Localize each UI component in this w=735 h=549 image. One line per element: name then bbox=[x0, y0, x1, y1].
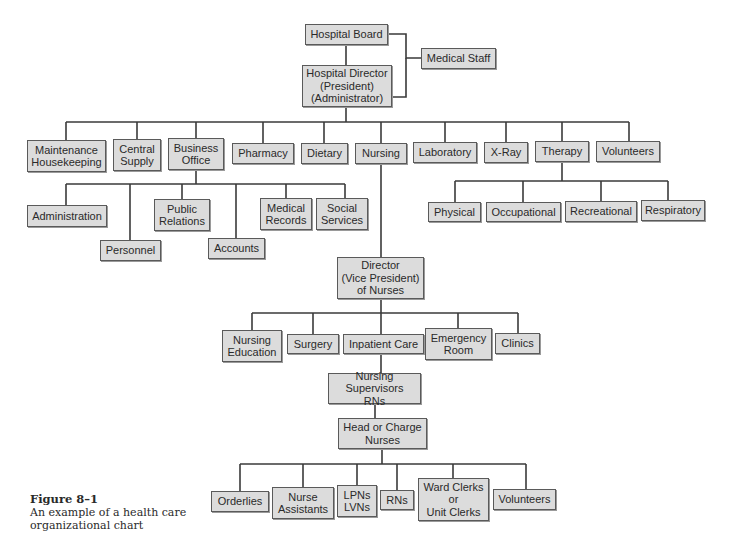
org-node-dietary: Dietary bbox=[301, 143, 348, 164]
org-node-recreational: Recreational bbox=[565, 201, 637, 222]
org-node-x-ray: X-Ray bbox=[484, 142, 528, 163]
org-node-medical-records: Medical Records bbox=[260, 198, 312, 230]
caption-line-2: organizational chart bbox=[30, 519, 186, 532]
org-node-central-supply: Central Supply bbox=[113, 139, 161, 171]
org-node-surgery: Surgery bbox=[287, 334, 339, 354]
org-node-respiratory: Respiratory bbox=[641, 200, 705, 221]
org-node-public-relations: Public Relations bbox=[154, 199, 210, 231]
connector-line bbox=[392, 58, 406, 97]
figure-label: Figure 8–1 bbox=[30, 493, 186, 506]
org-node-laboratory: Laboratory bbox=[413, 142, 477, 163]
org-node-physical: Physical bbox=[428, 202, 481, 222]
org-node-administration: Administration bbox=[27, 205, 107, 227]
org-node-ward-clerks: Ward Clerks or Unit Clerks bbox=[418, 478, 489, 521]
org-node-hospital-board: Hospital Board bbox=[305, 24, 388, 45]
org-chart: Hospital BoardMedical StaffHospital Dire… bbox=[0, 0, 735, 549]
org-node-rns: RNs bbox=[380, 490, 414, 510]
org-node-nursing: Nursing bbox=[355, 143, 407, 164]
org-node-nursing-education: Nursing Education bbox=[222, 330, 282, 362]
org-node-pharmacy: Pharmacy bbox=[232, 143, 294, 164]
org-node-occupational: Occupational bbox=[486, 202, 561, 222]
org-node-business-office: Business Office bbox=[168, 138, 224, 170]
org-node-clinics: Clinics bbox=[495, 333, 540, 354]
org-node-director-of-nurses: Director (Vice President) of Nurses bbox=[337, 257, 424, 299]
org-node-nurse-assistants: Nurse Assistants bbox=[272, 487, 334, 519]
org-node-therapy: Therapy bbox=[535, 141, 589, 162]
org-node-hospital-director: Hospital Director (President) (Administr… bbox=[302, 65, 392, 107]
org-node-emergency-room: Emergency Room bbox=[425, 328, 492, 360]
org-node-personnel: Personnel bbox=[100, 240, 161, 261]
org-node-inpatient-care: Inpatient Care bbox=[343, 334, 424, 354]
org-node-social-services: Social Services bbox=[316, 198, 368, 230]
org-node-orderlies: Orderlies bbox=[211, 491, 269, 512]
org-node-head-charge-nurses: Head or Charge Nurses bbox=[338, 418, 427, 449]
org-node-medical-staff: Medical Staff bbox=[421, 48, 496, 69]
caption-line-1: An example of a health care bbox=[30, 506, 186, 519]
org-node-volunteers-bottom: Volunteers bbox=[493, 489, 556, 510]
connector-line bbox=[388, 34, 421, 58]
org-node-volunteers-top: Volunteers bbox=[596, 141, 660, 162]
org-node-lpns-lvns: LPNs LVNs bbox=[337, 485, 377, 517]
org-node-accounts: Accounts bbox=[208, 238, 265, 259]
figure-caption: Figure 8–1 An example of a health care o… bbox=[30, 493, 186, 532]
org-node-maintenance-housekeeping: Maintenance Housekeeping bbox=[27, 140, 106, 172]
org-node-nursing-supervisors: Nursing Supervisors RNs bbox=[328, 373, 421, 404]
